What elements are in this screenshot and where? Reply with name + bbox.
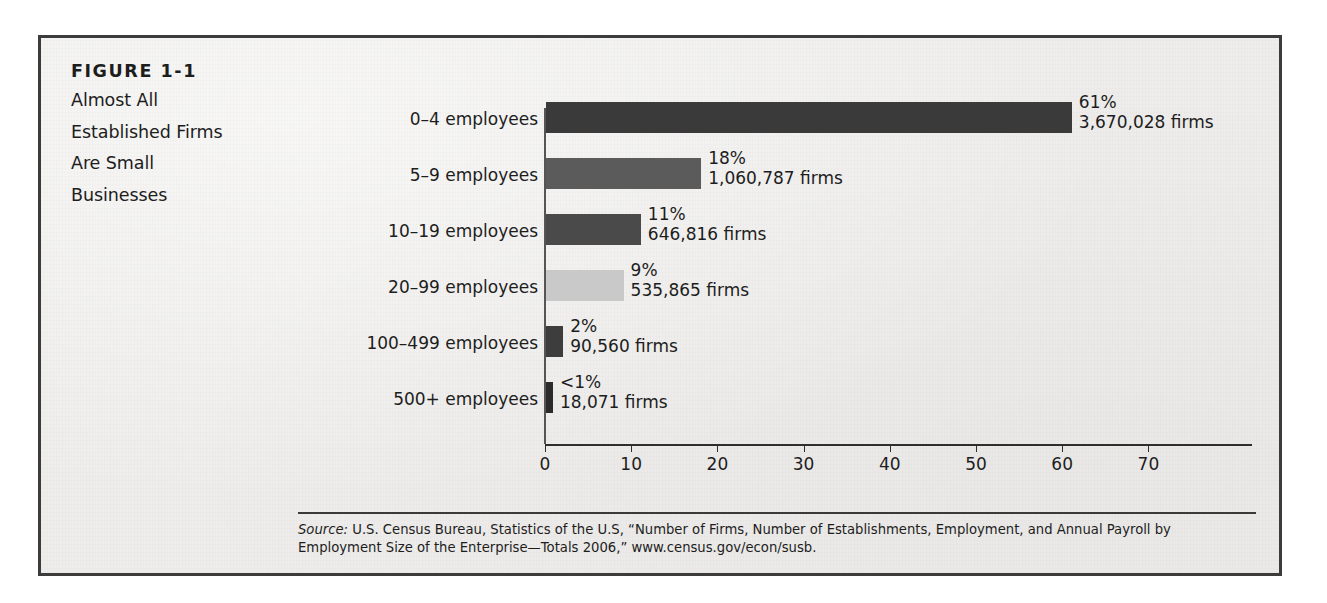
- x-axis-tick-label: 10: [620, 454, 642, 474]
- x-axis-tick-label: 20: [707, 454, 729, 474]
- figure-title-line-4: Businesses: [71, 187, 271, 205]
- source-text: Source: U.S. Census Bureau, Statistics o…: [298, 521, 1256, 557]
- figure-title-line-2: Established Firms: [71, 124, 271, 142]
- category-label: 0–4 employees: [410, 109, 538, 129]
- bar-row: 20–99 employees 9% 535,865 firms: [297, 264, 1257, 318]
- category-label: 5–9 employees: [410, 165, 538, 185]
- bar-percent-label: 9%: [631, 260, 750, 280]
- bar-percent-label: <1%: [560, 372, 668, 392]
- category-label: 100–499 employees: [366, 333, 538, 353]
- x-axis-tick-label: 30: [793, 454, 815, 474]
- x-axis-line: [545, 444, 1252, 446]
- bar-row: 10–19 employees 11% 646,816 firms: [297, 208, 1257, 262]
- x-axis-tick-label: 70: [1138, 454, 1160, 474]
- bar: [546, 102, 1072, 133]
- figure-frame: FIGURE 1-1 Almost All Established Firms …: [38, 35, 1282, 576]
- x-axis-tick-label: 0: [540, 454, 551, 474]
- bar-count-label: 646,816 firms: [648, 224, 767, 244]
- bar: [546, 270, 624, 301]
- bar-chart-plot-area: 0–4 employees 61% 3,670,028 firms 5–9 em…: [297, 58, 1257, 478]
- bar-value-callout: 2% 90,560 firms: [570, 316, 678, 356]
- bar-count-label: 3,670,028 firms: [1079, 112, 1214, 132]
- x-axis-tick: [631, 444, 632, 452]
- bar: [546, 214, 641, 245]
- category-label: 10–19 employees: [388, 221, 538, 241]
- bar-count-label: 535,865 firms: [631, 280, 750, 300]
- figure-title-block: FIGURE 1-1 Almost All Established Firms …: [71, 61, 271, 218]
- x-axis: 010203040506070: [545, 444, 1257, 478]
- bar: [546, 158, 701, 189]
- source-body: U.S. Census Bureau, Statistics of the U.…: [298, 522, 1171, 555]
- bar-row: 5–9 employees 18% 1,060,787 firms: [297, 152, 1257, 206]
- bar-row: 100–499 employees 2% 90,560 firms: [297, 320, 1257, 374]
- figure-title-line-3: Are Small: [71, 155, 271, 173]
- source-divider: [298, 512, 1256, 514]
- x-axis-tick: [976, 444, 977, 452]
- source-note: Source: U.S. Census Bureau, Statistics o…: [298, 512, 1256, 557]
- bar-value-callout: 18% 1,060,787 firms: [708, 148, 843, 188]
- x-axis-tick: [717, 444, 718, 452]
- x-axis-tick: [1062, 444, 1063, 452]
- bar-value-callout: 9% 535,865 firms: [631, 260, 750, 300]
- bar-row: 0–4 employees 61% 3,670,028 firms: [297, 96, 1257, 150]
- bar-percent-label: 18%: [708, 148, 843, 168]
- bar-percent-label: 61%: [1079, 92, 1214, 112]
- bar-row: 500+ employees <1% 18,071 firms: [297, 376, 1257, 430]
- bar-count-label: 90,560 firms: [570, 336, 678, 356]
- bar: [546, 382, 553, 413]
- bar: [546, 326, 563, 357]
- x-axis-tick: [804, 444, 805, 452]
- category-label: 20–99 employees: [388, 277, 538, 297]
- figure-number: FIGURE 1-1: [71, 61, 271, 81]
- bar-value-callout: <1% 18,071 firms: [560, 372, 668, 412]
- category-label: 500+ employees: [393, 389, 538, 409]
- x-axis-tick: [545, 444, 546, 452]
- bar-count-label: 1,060,787 firms: [708, 168, 843, 188]
- x-axis-tick-label: 50: [965, 454, 987, 474]
- x-axis-tick-label: 60: [1051, 454, 1073, 474]
- bar-value-callout: 11% 646,816 firms: [648, 204, 767, 244]
- source-label: Source:: [298, 522, 348, 537]
- x-axis-tick-label: 40: [879, 454, 901, 474]
- bar-count-label: 18,071 firms: [560, 392, 668, 412]
- bar-value-callout: 61% 3,670,028 firms: [1079, 92, 1214, 132]
- bar-percent-label: 2%: [570, 316, 678, 336]
- bar-percent-label: 11%: [648, 204, 767, 224]
- x-axis-tick: [1148, 444, 1149, 452]
- x-axis-tick: [890, 444, 891, 452]
- figure-title-line-1: Almost All: [71, 92, 271, 110]
